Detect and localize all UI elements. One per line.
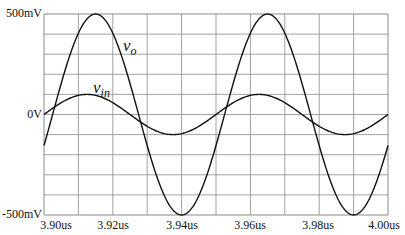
label-vin: vin	[93, 78, 110, 101]
x-tick-3.90: 3.90us	[40, 218, 72, 233]
x-tick-4.00: 4.00us	[368, 218, 400, 233]
x-tick-3.98: 3.98us	[302, 218, 334, 233]
label-vo: vo	[123, 36, 137, 59]
y-tick-zero: 0V	[0, 107, 42, 122]
plot-area	[0, 0, 405, 235]
x-tick-3.96: 3.96us	[234, 218, 266, 233]
y-tick-top: 500mV	[0, 6, 42, 21]
x-tick-3.94: 3.94us	[166, 218, 198, 233]
x-tick-3.92: 3.92us	[97, 218, 129, 233]
y-tick-bottom: -500mV	[0, 207, 42, 222]
